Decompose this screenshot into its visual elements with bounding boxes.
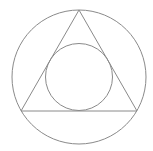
equilateral-triangle [21,10,137,111]
circumscribed-circle [12,10,146,144]
inscribed-circle [46,44,113,111]
geometry-diagram [0,0,153,151]
